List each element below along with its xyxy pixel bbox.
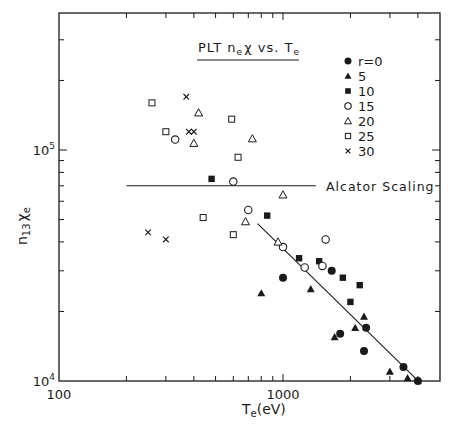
filled-circle-marker <box>345 58 352 65</box>
open-triangle-marker <box>279 191 287 198</box>
legend-label: r=0 <box>358 54 383 69</box>
legend: r=051015202530 <box>345 54 383 159</box>
series-15 <box>171 136 329 271</box>
cross-marker <box>191 129 197 135</box>
filled-circle-marker <box>279 274 287 282</box>
legend-item: 15 <box>345 99 375 114</box>
x-tick-label: 100 <box>47 387 72 402</box>
x-tick-label: 1000 <box>266 387 299 402</box>
y-tick-label: 105 <box>33 141 55 158</box>
open-square-marker <box>200 215 206 221</box>
filled-square-marker <box>340 275 346 281</box>
data-points <box>145 94 422 385</box>
filled-square-marker <box>345 88 351 94</box>
legend-item: 10 <box>345 84 374 99</box>
series-r-0 <box>279 267 422 385</box>
filled-circle-marker <box>328 267 336 275</box>
filled-triangle-marker <box>386 367 394 374</box>
filled-square-marker <box>296 255 302 261</box>
open-square-marker <box>345 133 350 138</box>
cross-marker <box>183 94 189 100</box>
filled-circle-marker <box>414 377 422 385</box>
legend-label: 20 <box>358 114 375 129</box>
chart: 1001000104105 r=051015202530 PLT neχ vs.… <box>0 0 454 433</box>
series-30 <box>145 94 196 242</box>
open-triangle-marker <box>190 139 198 146</box>
legend-label: 30 <box>358 144 375 159</box>
cross-marker <box>346 149 351 154</box>
y-axis-label: n13χe <box>14 207 32 245</box>
legend-label: 10 <box>358 84 375 99</box>
open-triangle-marker <box>248 135 256 142</box>
open-circle-marker <box>245 206 252 213</box>
alcator-scaling-label: Alcator Scaling <box>326 179 435 194</box>
open-triangle-marker <box>195 109 203 116</box>
filled-triangle-marker <box>360 313 368 320</box>
cross-marker <box>163 237 169 243</box>
open-square-marker <box>235 154 241 160</box>
cross-marker <box>145 230 151 236</box>
open-triangle-marker <box>345 118 352 124</box>
legend-item: 5 <box>345 69 367 84</box>
legend-item: 25 <box>345 129 374 144</box>
legend-item: 20 <box>345 114 375 129</box>
series-20 <box>190 109 287 245</box>
open-triangle-marker <box>241 218 249 225</box>
open-square-marker <box>229 116 235 122</box>
filled-triangle-marker <box>351 324 359 331</box>
filled-square-marker <box>347 299 353 305</box>
legend-label: 15 <box>358 99 375 114</box>
open-square-marker <box>230 232 236 238</box>
legend-item: 30 <box>346 144 375 159</box>
filled-square-marker <box>208 176 214 182</box>
plot-border <box>59 13 440 381</box>
open-circle-marker <box>319 262 326 269</box>
filled-triangle-marker <box>404 374 412 381</box>
legend-item: r=0 <box>345 54 383 69</box>
filled-circle-marker <box>362 324 370 332</box>
filled-square-marker <box>264 212 270 218</box>
filled-triangle-marker <box>257 289 265 296</box>
filled-square-marker <box>357 282 363 288</box>
open-circle-marker <box>345 103 351 109</box>
x-axis-label: Te(eV) <box>241 401 286 419</box>
legend-label: 25 <box>358 129 375 144</box>
legend-label: 5 <box>358 69 366 84</box>
open-circle-marker <box>322 236 329 243</box>
chart-title: PLT neχ vs. Te <box>198 40 300 57</box>
cross-marker <box>186 129 192 135</box>
filled-triangle-marker <box>307 285 315 292</box>
plot-frame <box>59 13 440 381</box>
filled-circle-marker <box>336 330 344 338</box>
filled-circle-marker <box>360 347 368 355</box>
open-circle-marker <box>301 264 308 271</box>
reference-lines <box>126 186 421 384</box>
open-circle-marker <box>230 178 237 185</box>
open-square-marker <box>149 100 155 106</box>
series-25 <box>149 100 241 238</box>
open-square-marker <box>163 129 169 135</box>
open-circle-marker <box>171 136 178 143</box>
filled-circle-marker <box>399 363 407 371</box>
axis-ticks: 1001000104105 <box>33 13 440 402</box>
filled-triangle-marker <box>345 73 352 79</box>
